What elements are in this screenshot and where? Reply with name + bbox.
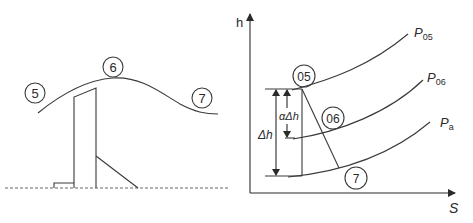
state-7: 7 xyxy=(345,167,367,189)
isobar-p06 xyxy=(293,80,423,139)
isobar-label-pa: Pa xyxy=(440,115,454,132)
isobar-label-p06: P06 xyxy=(427,70,446,87)
state-05: 05 xyxy=(293,65,315,87)
svg-text:6: 6 xyxy=(109,60,116,75)
delta-h-label: Δh xyxy=(257,128,273,142)
svg-text:06: 06 xyxy=(326,112,340,126)
flow-streamline xyxy=(38,78,218,114)
station-5: 5 xyxy=(25,83,45,103)
diagram-canvas: 5 6 7 h S P05 P06 Pa xyxy=(0,0,473,223)
nozzle-blade xyxy=(74,88,96,188)
state-06: 06 xyxy=(322,107,344,129)
svg-text:5: 5 xyxy=(31,86,38,101)
isobar-pa xyxy=(288,122,430,177)
svg-text:7: 7 xyxy=(353,172,360,186)
station-6: 6 xyxy=(103,57,123,77)
rotor-blade xyxy=(96,156,138,188)
svg-text:7: 7 xyxy=(198,91,205,106)
x-axis-label: S xyxy=(449,200,459,216)
y-axis-label: h xyxy=(236,15,243,30)
station-7: 7 xyxy=(192,88,212,108)
svg-text:05: 05 xyxy=(297,70,311,84)
alpha-delta-h-label: αΔh xyxy=(279,110,299,122)
isobar-label-p05: P05 xyxy=(414,25,433,42)
h-s-diagram: h S P05 P06 Pa Δh αΔh xyxy=(236,14,459,216)
stage-schematic: 5 6 7 xyxy=(5,57,228,188)
blade-root-ledge xyxy=(54,183,74,188)
